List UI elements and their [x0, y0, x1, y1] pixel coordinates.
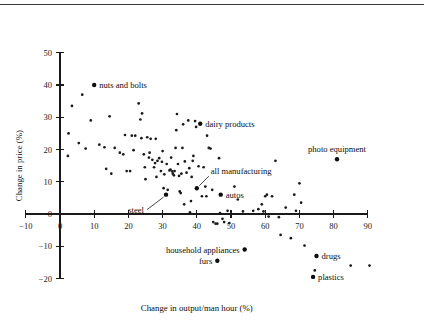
x-axis-tick-label: 90: [364, 221, 373, 231]
highlighted-data-point: [215, 259, 219, 263]
data-point: [226, 209, 229, 212]
data-point: [182, 123, 185, 126]
highlighted-data-point: [242, 247, 246, 251]
data-point: [266, 193, 269, 196]
axis-titles-layer: Change in output/man hour (%)Change in p…: [14, 130, 253, 313]
data-point: [162, 187, 165, 190]
data-point: [140, 137, 143, 140]
data-point: [77, 142, 80, 145]
point-label-household-appliances: household appliances: [166, 245, 240, 255]
x-axis-tick-label: 70: [295, 221, 304, 231]
data-point: [142, 153, 145, 156]
data-point: [67, 132, 70, 135]
data-point: [218, 157, 221, 160]
data-point: [170, 156, 173, 159]
data-point: [163, 173, 166, 176]
y-axis-tick-label: −10: [39, 241, 52, 251]
data-point: [202, 166, 205, 169]
y-axis-tick-label: 20: [44, 145, 53, 155]
data-point: [185, 171, 188, 174]
data-point: [178, 175, 181, 178]
data-point: [303, 244, 306, 247]
data-point: [141, 112, 144, 115]
data-point: [158, 157, 161, 160]
data-point: [84, 147, 87, 150]
data-point: [148, 151, 151, 154]
data-point: [271, 195, 274, 198]
data-point: [228, 222, 231, 225]
y-axis-title: Change in price (%): [14, 130, 24, 201]
data-point: [209, 147, 212, 150]
data-point: [144, 178, 147, 181]
data-point: [300, 201, 303, 204]
y-axis-tick-label: 10: [44, 177, 53, 187]
data-point: [81, 93, 84, 96]
highlighted-data-point: [314, 254, 318, 258]
data-point: [137, 102, 140, 105]
annotation-leader-line: [147, 197, 164, 210]
x-axis-tick-label: 10: [90, 221, 99, 231]
data-point: [192, 155, 195, 158]
data-point: [219, 212, 222, 215]
point-label-dairy-products: dairy products: [205, 119, 255, 129]
data-point: [242, 210, 245, 213]
y-axis-tick-label: 40: [44, 80, 53, 90]
highlighted-data-point: [164, 192, 168, 196]
point-label-drugs: drugs: [322, 251, 342, 261]
data-point: [122, 153, 125, 156]
data-point: [190, 200, 193, 203]
data-point: [290, 237, 293, 240]
x-axis-tick-label: 80: [329, 221, 338, 231]
data-point: [278, 216, 281, 219]
data-point: [154, 138, 157, 141]
data-point: [284, 206, 287, 209]
data-point: [206, 134, 209, 137]
data-point: [279, 234, 282, 237]
highlighted-data-point: [195, 186, 199, 190]
data-point: [194, 120, 197, 123]
data-point: [119, 151, 122, 154]
data-point: [212, 221, 215, 224]
point-label-steel: steel: [128, 205, 144, 215]
highlighted-data-point: [219, 192, 223, 196]
x-axis-tick-label: 0: [58, 221, 62, 231]
data-point: [274, 159, 277, 162]
data-point: [113, 147, 116, 150]
data-point: [89, 119, 92, 122]
data-point: [176, 113, 179, 116]
data-point: [216, 222, 219, 225]
data-point: [252, 209, 255, 212]
data-point: [161, 150, 164, 153]
data-point: [132, 149, 135, 152]
data-point: [183, 160, 186, 163]
data-point: [174, 147, 177, 150]
data-point: [233, 185, 236, 188]
data-point: [105, 168, 108, 171]
data-point: [154, 162, 157, 165]
data-point: [204, 185, 207, 188]
annotation-leader-line: [199, 176, 209, 186]
data-point: [211, 188, 214, 191]
point-label-autos: autos: [226, 190, 245, 200]
highlighted-data-point: [92, 83, 96, 87]
data-point: [191, 159, 194, 162]
data-point: [173, 170, 176, 173]
x-axis-tick-label: 20: [124, 221, 133, 231]
data-point: [110, 172, 113, 175]
point-label-nuts-and-bolts: nuts and bolts: [99, 80, 147, 90]
y-axis-tick-label: 0: [48, 209, 52, 219]
data-point: [190, 176, 193, 179]
point-label-plastics: plastics: [318, 272, 344, 282]
point-label-all-manufacturing: all manufacturing: [211, 166, 273, 176]
data-point: [173, 174, 176, 177]
data-point: [160, 170, 163, 173]
data-point: [129, 170, 132, 173]
data-point: [188, 167, 191, 170]
data-point: [166, 188, 169, 191]
data-point: [134, 134, 137, 137]
data-point: [108, 115, 111, 118]
data-point: [368, 264, 371, 267]
data-point: [189, 211, 192, 214]
highlighted-data-point: [311, 275, 315, 279]
data-point: [262, 210, 265, 213]
